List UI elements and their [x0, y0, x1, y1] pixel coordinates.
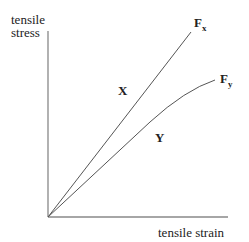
end-label-fx: Fx: [194, 16, 206, 35]
x-axis-label: tensile strain: [158, 226, 224, 239]
curve-x: [48, 32, 191, 217]
region-label-y: Y: [155, 131, 164, 144]
region-label-x: X: [118, 84, 127, 97]
curve-y: [48, 80, 215, 217]
end-label-fy: Fy: [220, 72, 232, 91]
y-axis-label: tensile stress: [11, 13, 45, 39]
